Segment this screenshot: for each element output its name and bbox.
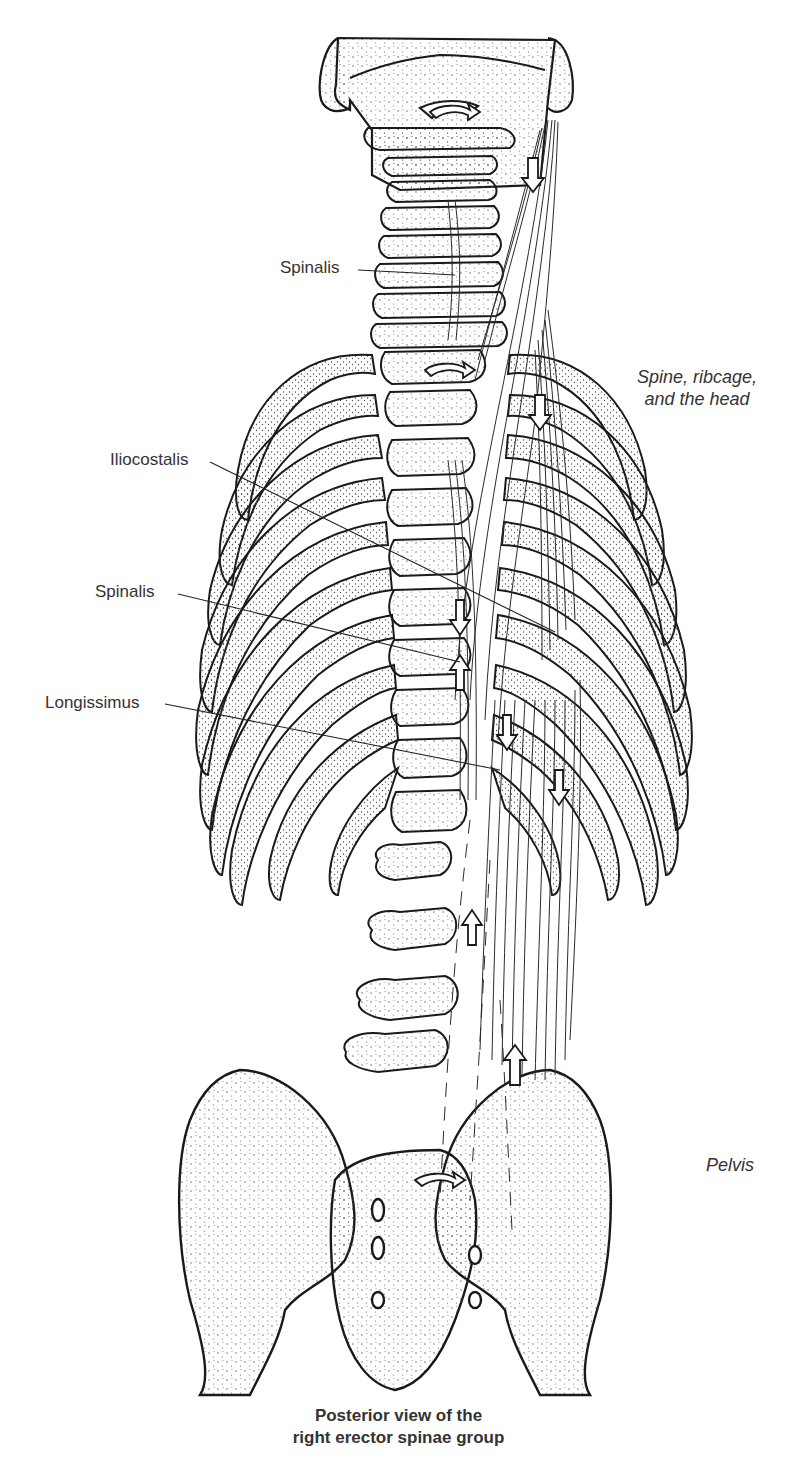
label-iliocostalis: Iliocostalis: [110, 450, 188, 470]
region-label-pelvis: Pelvis: [706, 1154, 754, 1176]
pelvis: [179, 1070, 611, 1395]
region-label-upper: Spine, ribcage, and the head: [612, 366, 782, 410]
label-spinalis-thoracic: Spinalis: [95, 582, 155, 602]
caption-line1: Posterior view of the: [0, 1405, 797, 1427]
caption-line2: right erector spinae group: [0, 1427, 797, 1449]
figure-caption: Posterior view of the right erector spin…: [0, 1405, 797, 1449]
label-longissimus: Longissimus: [45, 693, 140, 713]
region-label-upper-line1: Spine, ribcage,: [612, 366, 782, 388]
label-spinalis-cervical: Spinalis: [280, 258, 340, 278]
erector-spinae-illustration: [0, 0, 797, 1465]
region-label-upper-line2: and the head: [612, 388, 782, 410]
